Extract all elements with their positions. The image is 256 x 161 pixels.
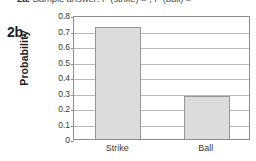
y-axis-tick-label: 0.4: [44, 74, 70, 82]
y-axis-tick-label: 0.5: [44, 59, 70, 67]
y-axis-tick-mark: [71, 79, 74, 80]
truncated-header-strip: 2a. Sample answer: P (strike) = ; P (bal…: [0, 0, 256, 7]
x-axis-tick-labels: StrikeBall: [73, 143, 250, 157]
y-axis-tick-mark: [71, 17, 74, 18]
y-axis-tick-label: 0.2: [44, 105, 70, 113]
header-item-text: Sample answer: P (strike) = ; P (ball) =: [32, 0, 191, 4]
y-axis-tick-mark: [71, 126, 74, 127]
y-axis-tick-mark: [71, 64, 74, 65]
bar-ball: [184, 96, 230, 139]
y-axis-tick-label: 0.7: [44, 28, 70, 36]
y-axis-tick-label: 0.3: [44, 90, 70, 98]
bar-chart-plot-area: [73, 16, 250, 140]
y-axis-tick-labels: 0.80.70.60.50.40.30.20.10: [44, 16, 70, 140]
y-axis-tick-mark: [71, 95, 74, 96]
header-item-number: 2a.: [17, 0, 30, 4]
y-axis-tick-label: 0.8: [44, 12, 70, 20]
y-axis-tick-mark: [71, 33, 74, 34]
y-axis-title: Probability: [18, 22, 30, 94]
header-text-line: 2a. Sample answer: P (strike) = ; P (bal…: [17, 0, 191, 4]
x-axis-tick-label: Strike: [73, 143, 162, 153]
x-axis-tick-label: Ball: [162, 143, 251, 153]
y-axis-tick-label: 0.6: [44, 43, 70, 51]
y-axis-tick-label: 0.1: [44, 121, 70, 129]
bar-strike: [95, 27, 141, 139]
y-axis-tick-mark: [71, 48, 74, 49]
y-axis-tick-mark: [71, 141, 74, 142]
y-axis-tick-mark: [71, 110, 74, 111]
y-axis-tick-label: 0: [44, 136, 70, 144]
